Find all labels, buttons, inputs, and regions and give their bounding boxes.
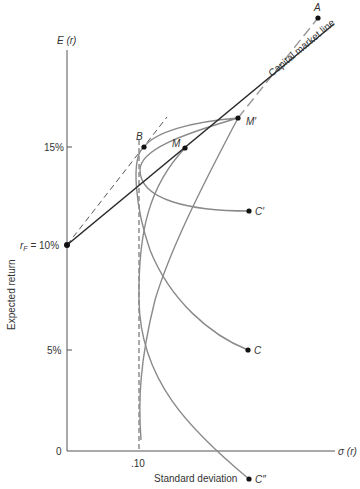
x-tick-label-10: .10 [131, 458, 145, 469]
label-a: A [313, 2, 321, 13]
point-c-prime [246, 208, 251, 213]
y-axis-title: Expected return [6, 259, 17, 330]
point-m [182, 145, 187, 150]
risk-free-label: rF = 10% [20, 240, 59, 252]
y-tick-label-0: 0 [56, 446, 62, 457]
label-m-prime: M′ [246, 116, 257, 127]
x-axis-title: Standard deviation [154, 473, 237, 484]
point-c [245, 347, 250, 352]
point-rf [64, 242, 70, 248]
label-c: C [254, 345, 262, 356]
label-b: B [136, 131, 143, 142]
point-a [315, 15, 320, 20]
y-tick-label-5: 5% [47, 345, 62, 356]
curve-m-cdoubleprime [139, 148, 249, 479]
label-c-prime: C′ [255, 206, 265, 217]
label-m: M [172, 138, 181, 149]
curve-b-c [136, 147, 248, 350]
label-c-double-prime: C″ [255, 474, 266, 485]
capital-market-line-chart: E (r) σ (r) Expected return Standard dev… [0, 0, 360, 489]
point-c-double-prime [246, 476, 251, 481]
curve-mprime-cdoubleprime [140, 118, 238, 440]
x-axis-symbol: σ (r) [338, 446, 357, 457]
capital-market-line-label: Capital market line [266, 17, 337, 79]
y-axis-symbol: E (r) [57, 35, 76, 46]
point-b [141, 144, 146, 149]
point-m-prime [235, 115, 240, 120]
curve-b-mprime-cprime [140, 118, 249, 211]
y-tick-label-15: 15% [44, 142, 64, 153]
rf-to-b-dashed-line [67, 117, 167, 245]
